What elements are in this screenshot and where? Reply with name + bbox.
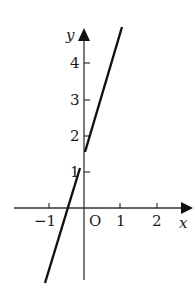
x-axis-label: x	[179, 214, 188, 232]
x-axis-arrow-icon	[181, 202, 193, 214]
y-tick-label: 4	[70, 54, 80, 72]
x-tick-label: 1	[116, 212, 126, 230]
y-axis-label: y	[65, 26, 75, 44]
origin-label: O	[89, 212, 101, 230]
x-ticks	[49, 203, 157, 208]
data-line-upper	[85, 27, 122, 152]
y-tick-label: 3	[70, 91, 80, 109]
y-axis-arrow-icon	[78, 28, 90, 41]
x-tick-label: −1	[34, 212, 56, 230]
y-ticks	[84, 63, 90, 172]
x-tick-label: 2	[152, 212, 162, 230]
coordinate-plane: −1 O 1 2 x 1 2 3 4 y	[0, 0, 195, 300]
y-tick-label: 2	[70, 127, 80, 145]
